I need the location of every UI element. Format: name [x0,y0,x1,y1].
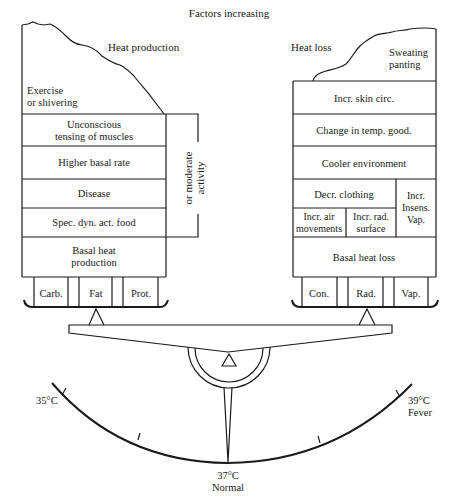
diagram-title: Factors increasing [189,7,270,19]
row-higher-basal-rate: Higher basal rate [58,157,130,168]
scale-normal-label: Normal [212,482,244,493]
tray-rad: Rad. [356,288,376,299]
row-change-in-temp: Change in temp. good. [316,125,411,136]
tick-38 [318,436,320,443]
row-incr-rad-line1: Incr. rad. [353,211,389,222]
row-incr-skin-circ: Incr. skin circ. [334,93,394,104]
row-incr-air-line2: movements [296,223,342,234]
bracket-label-line2: activity [194,161,206,194]
heat-production-heading: Heat production [108,41,180,53]
heat-production-tray: Carb. Fat Prot. [24,277,168,325]
scale-low-label: 35°C [36,395,58,406]
row-disease: Disease [78,188,111,199]
row-basal-heat-loss: Basal heat loss [333,252,395,263]
exercise-label-line1: Exercise [27,85,63,96]
tray-fat: Fat [89,288,103,299]
heat-balance-diagram: Factors increasing or moderate activity … [0,0,458,502]
sweating-label-line1: Sweating [389,47,429,58]
fulcrum-triangle [222,354,236,366]
left-pan-pivot [89,309,104,325]
bracket-label-line1: or moderate [182,151,194,204]
exercise-label-line2: or shivering [27,97,78,108]
balance-beam [69,325,392,352]
heat-loss-column: Heat loss Sweating panting Incr. skin ci… [291,28,436,277]
heat-production-column: or moderate activity Heat production Exe… [22,22,206,277]
row-basal-heat-line2: production [71,257,117,268]
row-basal-heat-line1: Basal heat [72,245,116,256]
row-cooler-environment: Cooler environment [322,158,406,169]
row-spec-dyn-act-food: Spec. dyn. act. food [52,217,136,228]
row-unconscious-line1: Unconscious [67,119,121,130]
right-pan-pivot [359,309,375,325]
tray-con: Con. [309,288,329,299]
row-insens-line3: Vap. [407,214,425,225]
scale-high-label: Fever [408,407,432,418]
tray-carb: Carb. [39,288,62,299]
scale-normal-temp: 37°C [217,470,239,481]
scale-high-temp: 39°C [408,395,430,406]
sweating-label-line2: panting [389,59,421,70]
central-pivot [188,347,270,462]
row-insens-line2: Insens. [402,202,430,213]
heat-loss-tray: Con. Rad. Vap. [292,277,438,325]
heat-loss-heading: Heat loss [291,41,332,53]
row-decr-clothing: Decr. clothing [314,189,374,200]
tray-vap: Vap. [402,288,421,299]
tick-39 [396,390,400,397]
tray-prot: Prot. [131,288,151,299]
tick-35 [62,388,66,395]
row-insens-line1: Incr. [407,190,425,201]
row-incr-rad-line2: surface [357,223,386,234]
row-incr-air-line1: Incr. air [303,211,335,222]
indicator-needle [224,387,232,462]
tick-36 [138,433,140,440]
temperature-scale: 35°C 37°C Normal 39°C Fever [36,383,432,493]
row-unconscious-line2: tensing of muscles [55,131,133,142]
